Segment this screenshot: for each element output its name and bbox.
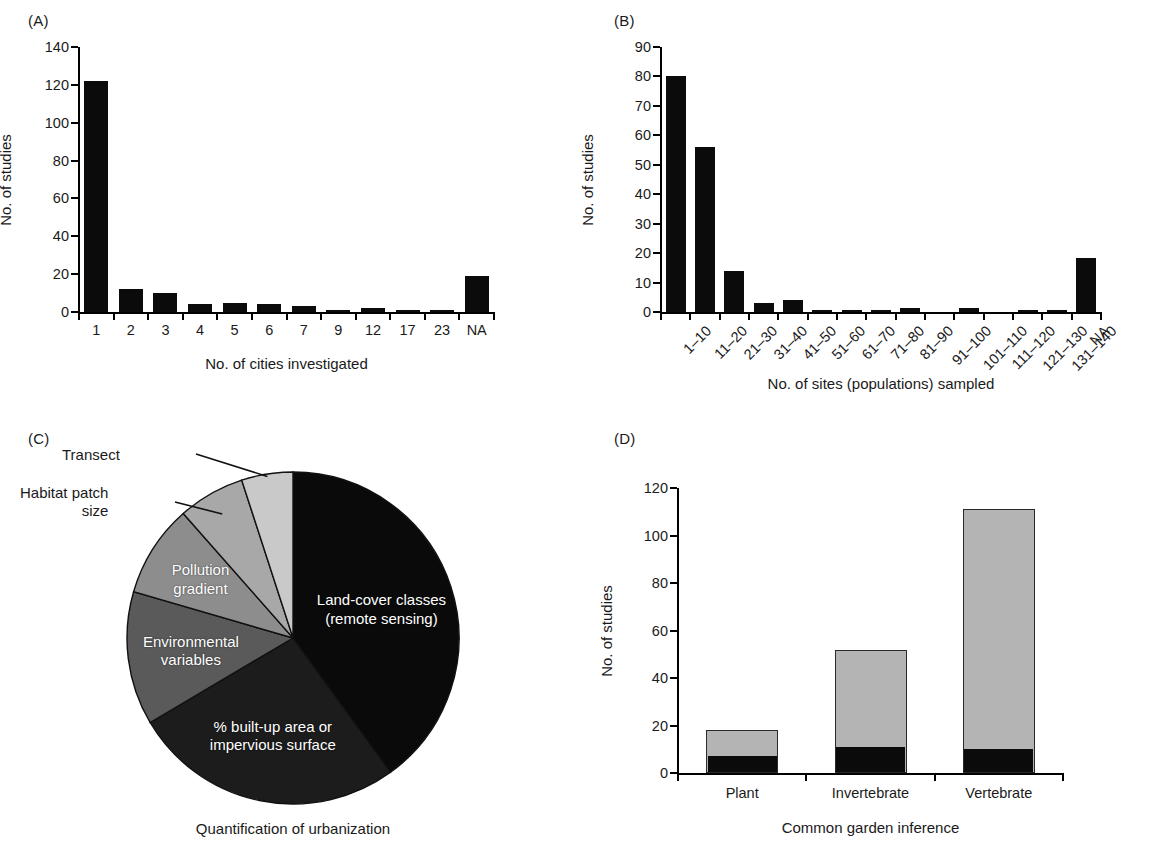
panel-b-bar: [783, 300, 803, 312]
panel-a-x-axis-title: No. of cities investigated: [79, 355, 494, 372]
panel-b-bar: [724, 271, 744, 312]
panel-a-bar: [153, 293, 177, 312]
panel-b-y-tick: [653, 193, 660, 195]
panel-b-y-tick-label: 10: [609, 275, 651, 291]
panel-b-plot-area: 01020304050607080901–1011–2021–3031–4041…: [586, 0, 1172, 410]
figure-canvas: (A) 02040608010012014012345679121723NA N…: [0, 0, 1172, 861]
panel-a-y-tick: [71, 273, 78, 275]
panel-a-y-tick-label: 100: [27, 115, 69, 131]
panel-d-y-tick-label: 80: [624, 575, 668, 591]
panel-a-y-tick: [71, 122, 78, 124]
panel-d-y-tick: [670, 487, 677, 489]
panel-d-y-tick-label: 0: [624, 765, 668, 781]
panel-b-y-tick: [653, 311, 660, 313]
panel-d-x-axis-title: Common garden inference: [678, 819, 1063, 836]
panel-d-bar-light-segment: [963, 509, 1035, 773]
pie-caption: Quantification of urbanization: [196, 820, 390, 837]
panel-d-bar-dark-segment: [708, 756, 777, 771]
panel-a-x-tick-label: 1: [92, 322, 100, 338]
panel-a-bar: [326, 310, 350, 312]
panel-b-bar: [666, 76, 686, 312]
panel-a-x-tick-label: 2: [127, 322, 135, 338]
panel-a-bar: [292, 306, 316, 312]
panel-a-x-tick: [113, 313, 115, 320]
panel-a-x-tick: [493, 313, 495, 320]
panel-a-y-axis-title: No. of studies: [0, 134, 14, 226]
panel-d-bar-dark-segment: [964, 749, 1033, 771]
pie-slice-label: Land-cover classes (remote sensing): [317, 591, 446, 628]
panel-a-x-tick: [458, 313, 460, 320]
panel-b-y-tick-label: 90: [609, 39, 651, 55]
panel-b-x-tick: [660, 313, 662, 320]
panel-b-bar: [1047, 310, 1067, 312]
panel-b-y-tick-label: 20: [609, 245, 651, 261]
panel-b-x-tick: [719, 313, 721, 320]
panel-d-x-tick-label: Plant: [726, 785, 759, 801]
panel-a-y-tick: [71, 160, 78, 162]
panel-b-x-tick: [777, 313, 779, 320]
panel-b-bar: [871, 310, 891, 312]
panel-b-x-tick: [836, 313, 838, 320]
pie-slice-label: % built-up area or impervious surface: [210, 717, 336, 754]
panel-d-y-tick: [670, 677, 677, 679]
panel-b-bar: [754, 303, 774, 312]
panel-d-y-tick-label: 100: [624, 528, 668, 544]
panel-b-x-tick: [689, 313, 691, 320]
panel-d-y-axis-line: [677, 488, 679, 773]
panel-b-bar: [812, 310, 832, 312]
panel-b-y-tick-label: 30: [609, 216, 651, 232]
panel-d: (D) 020406080100120PlantInvertebrateVert…: [586, 410, 1172, 861]
panel-b-bar: [842, 310, 862, 312]
panel-a-x-tick-label: 5: [231, 322, 239, 338]
panel-b-y-tick-label: 50: [609, 157, 651, 173]
panel-d-y-tick-label: 20: [624, 718, 668, 734]
panel-d-x-tick-label: Vertebrate: [965, 785, 1032, 801]
panel-a-bar: [84, 81, 108, 312]
panel-a-x-tick: [251, 313, 253, 320]
panel-b-x-tick: [1041, 313, 1043, 320]
panel-a-x-tick: [389, 313, 391, 320]
panel-a-y-tick: [71, 311, 78, 313]
pie-slice-label: Environmental variables: [143, 633, 239, 670]
pie-slice-label-outside: Transect: [62, 446, 120, 464]
panel-a-x-tick: [355, 313, 357, 320]
pie-label-leader-line: [196, 454, 267, 477]
panel-a-x-tick-label: 3: [161, 322, 169, 338]
pie-slice-label-outside: Habitat patch size: [20, 484, 108, 521]
panel-b-x-tick: [748, 313, 750, 320]
panel-d-x-axis-line: [677, 773, 1064, 775]
panel-b-x-tick: [1100, 313, 1102, 320]
panel-d-plot-area: 020406080100120PlantInvertebrateVertebra…: [586, 410, 1172, 861]
panel-a: (A) 02040608010012014012345679121723NA N…: [0, 0, 586, 410]
panel-a-bar: [396, 310, 420, 312]
panel-d-x-tick: [934, 774, 936, 781]
panel-d-x-tick: [1062, 774, 1064, 781]
panel-a-y-axis-line: [78, 47, 80, 312]
panel-b-y-tick-label: 40: [609, 186, 651, 202]
panel-b-x-tick-label: 21–30: [741, 323, 781, 363]
panel-d-y-tick: [670, 630, 677, 632]
panel-b-x-tick: [924, 313, 926, 320]
panel-b-y-tick-label: 0: [609, 304, 651, 320]
panel-b-x-axis-line: [660, 312, 1102, 314]
panel-b-bar: [1076, 258, 1096, 312]
panel-a-y-tick-label: 120: [27, 77, 69, 93]
panel-b-x-tick: [807, 313, 809, 320]
panel-a-plot-area: 02040608010012014012345679121723NA: [0, 0, 586, 410]
panel-b-y-tick-label: 60: [609, 127, 651, 143]
panel-a-x-tick: [216, 313, 218, 320]
panel-b-x-tick: [1071, 313, 1073, 320]
panel-a-y-tick-label: 80: [27, 153, 69, 169]
panel-a-bar: [257, 304, 281, 312]
panel-a-x-tick-label: 12: [365, 322, 381, 338]
panel-a-y-tick-label: 40: [27, 228, 69, 244]
panel-a-x-tick-label: NA: [467, 322, 487, 338]
panel-d-bar-dark-segment: [836, 747, 905, 772]
panel-a-bar: [361, 308, 385, 312]
panel-a-y-tick-label: 140: [27, 39, 69, 55]
panel-a-x-tick: [320, 313, 322, 320]
panel-a-bar: [430, 310, 454, 312]
panel-d-y-tick-label: 120: [624, 480, 668, 496]
panel-a-x-tick-label: 4: [196, 322, 204, 338]
panel-b-x-tick: [895, 313, 897, 320]
